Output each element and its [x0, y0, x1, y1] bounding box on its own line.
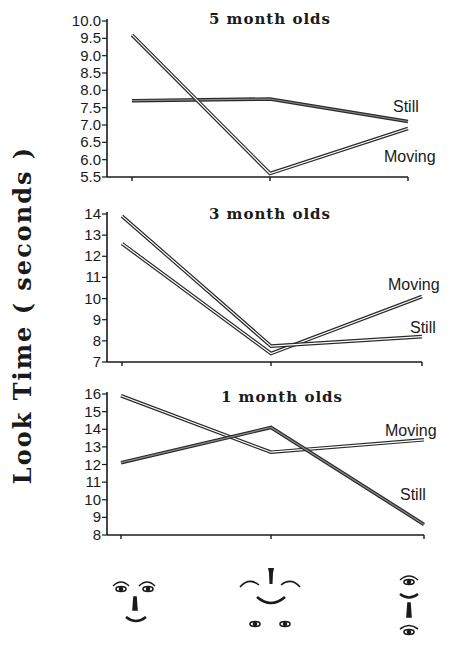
panel-title: 5 month olds	[209, 10, 331, 28]
y-tick-label: 9.0	[80, 47, 101, 64]
y-tick-label: 13	[84, 438, 101, 455]
y-tick-label: 7	[93, 353, 101, 370]
y-tick-label: 16	[84, 385, 101, 402]
figure-canvas: 10.09.59.08.58.07.57.06.56.05.55 month o…	[0, 0, 457, 648]
series-still	[122, 216, 422, 346]
y-tick-label: 8	[93, 526, 101, 543]
panel-3: 16151413121110981 month oldsMovingStill	[84, 385, 436, 543]
y-tick-label: 14	[84, 205, 101, 222]
series-label-moving: Moving	[384, 148, 436, 165]
y-tick-label: 8	[93, 332, 101, 349]
panel-1: 10.09.59.08.58.07.57.06.56.05.55 month o…	[72, 10, 436, 185]
series-still	[132, 99, 408, 122]
y-tick-label: 10	[84, 290, 101, 307]
y-tick-label: 8.0	[80, 81, 101, 98]
y-tick-label: 9	[93, 311, 101, 328]
y-tick-label: 6.0	[80, 151, 101, 168]
y-tick-label: 12	[84, 456, 101, 473]
series-label-still: Still	[410, 319, 436, 336]
y-tick-label: 13	[84, 226, 101, 243]
y-tick-label: 11	[85, 268, 101, 285]
y-tick-label: 12	[84, 247, 101, 264]
series-moving	[122, 244, 422, 354]
face-scrambled-icon	[240, 568, 300, 627]
y-tick-label: 10	[84, 491, 101, 508]
y-tick-label: 11	[85, 473, 101, 490]
y-tick-label: 6.5	[80, 133, 101, 150]
series-label-still: Still	[393, 98, 419, 115]
series-label-still: Still	[400, 486, 426, 503]
series-label-moving: Moving	[388, 276, 440, 293]
panel-title: 3 month olds	[209, 205, 331, 223]
y-tick-label: 7.5	[80, 99, 101, 116]
chart-panels: 10.09.59.08.58.07.57.06.56.05.55 month o…	[72, 10, 440, 543]
y-tick-label: 8.5	[80, 64, 101, 81]
face-vertical-icon	[400, 576, 418, 635]
y-tick-label: 9	[93, 508, 101, 525]
y-tick-label: 7.0	[80, 116, 101, 133]
face-normal-icon	[113, 582, 155, 621]
series-label-moving: Moving	[385, 422, 437, 439]
y-tick-label: 10.0	[72, 12, 101, 29]
panel-title: 1 month olds	[221, 388, 343, 406]
series-moving	[132, 35, 408, 174]
panel-2: 14131211109873 month oldsMovingStill	[84, 205, 439, 370]
y-tick-label: 5.5	[80, 168, 101, 185]
y-tick-label: 15	[84, 403, 101, 420]
y-tick-label: 14	[84, 420, 101, 437]
y-tick-label: 9.5	[80, 29, 101, 46]
